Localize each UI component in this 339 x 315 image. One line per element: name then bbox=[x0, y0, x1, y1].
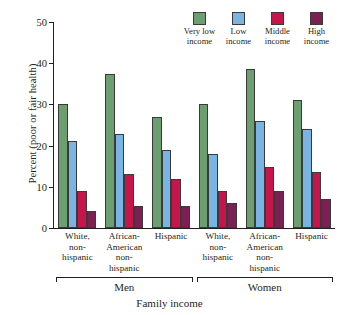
category-label: White,non-hispanic bbox=[194, 231, 241, 273]
supergroup-bracket: Men bbox=[54, 277, 195, 299]
category-label: African-Americannon-hispanic bbox=[101, 231, 148, 273]
bar bbox=[171, 179, 181, 228]
bar bbox=[274, 191, 284, 228]
bar bbox=[87, 211, 97, 228]
y-tick-mark bbox=[49, 146, 53, 147]
y-tick-label: 40 bbox=[37, 58, 48, 69]
x-axis-line bbox=[53, 228, 335, 229]
bar bbox=[124, 174, 134, 228]
bar bbox=[58, 104, 68, 228]
bar bbox=[105, 74, 115, 229]
supergroup-bracket: Women bbox=[195, 277, 336, 299]
y-tick-label: 30 bbox=[37, 99, 48, 110]
bar bbox=[265, 167, 275, 228]
bar bbox=[302, 129, 312, 228]
bar bbox=[162, 150, 172, 228]
y-tick-mark bbox=[49, 187, 53, 188]
y-tick-label: 10 bbox=[37, 181, 48, 192]
bar bbox=[312, 172, 322, 228]
bar bbox=[199, 104, 209, 228]
y-tick-label: 50 bbox=[37, 17, 48, 28]
y-tick-mark bbox=[49, 63, 53, 64]
y-tick-mark bbox=[49, 22, 53, 23]
category-label: Hispanic bbox=[288, 231, 335, 273]
category-label: White,non-hispanic bbox=[54, 231, 101, 273]
supergroup-brackets: MenWomen bbox=[54, 277, 335, 299]
y-tick-mark bbox=[49, 228, 53, 229]
supergroup-label: Men bbox=[54, 281, 195, 293]
bar bbox=[218, 191, 228, 228]
x-axis-label: Family income bbox=[0, 297, 339, 309]
bar bbox=[227, 203, 237, 228]
bar bbox=[321, 199, 331, 228]
bar bbox=[77, 191, 87, 228]
bar bbox=[134, 206, 144, 228]
bar-group bbox=[241, 22, 288, 228]
bar bbox=[208, 154, 218, 228]
y-tick-label: 0 bbox=[42, 223, 47, 234]
bar bbox=[293, 100, 303, 228]
y-tick-mark bbox=[49, 104, 53, 105]
category-label: African-Americannon-hispanic bbox=[241, 231, 288, 273]
bar-group bbox=[148, 22, 195, 228]
plot-area: 01020304050 bbox=[53, 22, 335, 228]
bar bbox=[68, 141, 78, 228]
bar bbox=[152, 117, 162, 228]
bar-group bbox=[194, 22, 241, 228]
bar-chart: Very lowincomeLowincomeMiddleincomeHighi… bbox=[0, 0, 339, 315]
bar bbox=[181, 206, 191, 228]
bracket-line bbox=[56, 277, 193, 278]
bar bbox=[246, 69, 256, 228]
bracket-line bbox=[197, 277, 334, 278]
bar-group bbox=[54, 22, 101, 228]
category-label: Hispanic bbox=[148, 231, 195, 273]
bar-group bbox=[288, 22, 335, 228]
bar bbox=[115, 134, 125, 228]
bar-groups bbox=[54, 22, 335, 228]
bar bbox=[255, 121, 265, 228]
category-labels: White,non-hispanicAfrican-Americannon-hi… bbox=[54, 231, 335, 273]
supergroup-label: Women bbox=[195, 281, 336, 293]
bar-group bbox=[101, 22, 148, 228]
y-tick-label: 20 bbox=[37, 140, 48, 151]
